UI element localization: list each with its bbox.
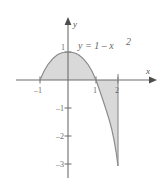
equation-label: y = 1 – x [77, 40, 114, 51]
parabola-plot-svg: y x y = 1 – x 2 –1 1 2 1 –1 –2 –3 [0, 0, 162, 191]
x-axis-label: x [145, 66, 150, 76]
ytick-label-neg3: –3 [55, 160, 64, 169]
xtick-label-2: 2 [115, 86, 119, 95]
ytick-label-neg2: –2 [55, 132, 64, 141]
y-axis-label: y [72, 19, 77, 29]
figure-graph-of-parabola: y x y = 1 – x 2 –1 1 2 1 –1 –2 –3 [0, 0, 162, 191]
ytick-label-neg1: –1 [55, 104, 64, 113]
xtick-label-1: 1 [93, 86, 97, 95]
y-axis-arrow-icon [65, 17, 72, 25]
ytick-label-1: 1 [61, 43, 65, 52]
x-axis-arrow-icon [149, 77, 157, 84]
xtick-label-neg1: –1 [33, 86, 42, 95]
equation-exponent: 2 [126, 36, 131, 47]
